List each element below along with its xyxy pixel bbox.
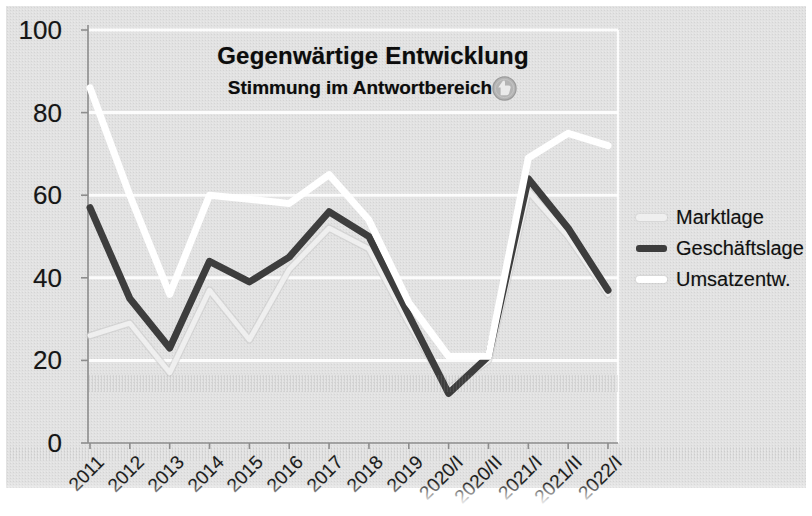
scan-artifact-band [89, 375, 618, 392]
chart-subtitle: Stimmung im Antwortbereich [228, 77, 492, 99]
y-tick-label: 100 [0, 16, 62, 44]
legend: Marktlage Geschäftslage Umsatzentw. [636, 206, 804, 299]
y-tick-label: 60 [0, 181, 62, 209]
chart-title: Gegenwärtige Entwicklung [173, 42, 573, 70]
legend-item-geschaeftslage: Geschäftslage [636, 237, 804, 259]
legend-swatch-geschaeftslage [636, 245, 667, 252]
title-block: Gegenwärtige Entwicklung Stimmung im Ant… [173, 42, 573, 102]
legend-label-umsatzentw: Umsatzentw. [676, 268, 790, 291]
thumb-stamp-icon [491, 75, 518, 102]
y-tick-label: 20 [0, 346, 62, 374]
scanned-chart-page: 020406080100 201120122013201420152016201… [0, 0, 812, 516]
legend-item-umsatzentw: Umsatzentw. [636, 268, 804, 290]
y-tick-label: 0 [0, 429, 62, 457]
series-lines [90, 88, 608, 394]
legend-label-marktlage: Marktlage [676, 206, 764, 229]
legend-swatch-umsatzentw [636, 276, 667, 283]
legend-item-marktlage: Marktlage [636, 206, 804, 228]
legend-label-geschaeftslage: Geschäftslage [676, 237, 804, 260]
y-tick-label: 40 [0, 264, 62, 292]
y-tick-label: 80 [0, 99, 62, 127]
legend-swatch-marktlage [636, 214, 667, 221]
